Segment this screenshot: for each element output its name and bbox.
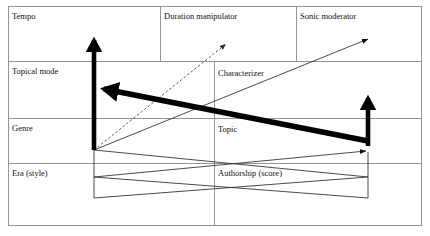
diagram-canvas: Tempo Duration manipulator Sonic moderat…	[0, 0, 430, 236]
cell-label-tempo: Tempo	[12, 11, 35, 21]
cell-label-sonic-moderator: Sonic moderator	[300, 11, 356, 21]
relation-arrows	[0, 0, 430, 236]
cell-label-genre: Genre	[12, 123, 33, 133]
arrow-dashed-up-right	[94, 44, 226, 150]
cell-label-topical-mode: Topical mode	[12, 66, 58, 76]
cell-label-authorship-score: Authorship (score)	[218, 168, 282, 178]
cell-label-characterizer: Characterizer	[218, 68, 264, 78]
cell-label-duration-manipulator: Duration manipulator	[164, 11, 237, 21]
cell-label-topic: Topic	[218, 124, 237, 134]
cell-label-era-style: Era (style)	[12, 168, 48, 178]
